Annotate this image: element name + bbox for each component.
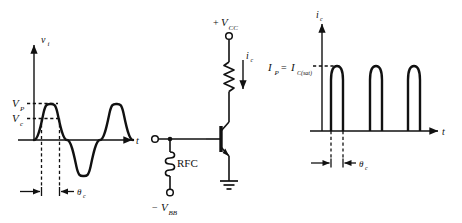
current-pulse-1: [331, 66, 343, 131]
icsat-symbol: I: [290, 61, 296, 73]
collector-resistor: [224, 62, 234, 92]
class-c-amplifier-circuit: + V CC i c: [152, 16, 254, 217]
vcc-sign: +: [213, 17, 219, 28]
vcc-subscript: CC: [229, 24, 239, 32]
ic-circuit-label-symbol: i: [246, 50, 249, 61]
ic-axis-label: i: [316, 9, 319, 20]
vi-axis-label-sub: i: [48, 40, 50, 48]
theta-c-label-subscript: c: [83, 193, 86, 199]
vbb-terminal: [167, 189, 174, 196]
vi-x-axis-label: t: [136, 135, 139, 146]
rfc-label: RFC: [177, 157, 198, 169]
theta-c-label-symbol: θ: [77, 187, 82, 197]
vp-label-subscript: P: [19, 105, 25, 113]
technical-figure: v i t V P V c θ c + V CC: [0, 0, 462, 223]
input-terminal: [152, 136, 159, 143]
vcc-terminal: [226, 33, 233, 40]
ic-axis-label-sub: c: [320, 16, 323, 22]
current-pulse-3: [408, 66, 420, 131]
collector-current-waveform: i c t I P = I C(sat) θ c: [267, 9, 445, 171]
ic-theta-c-label-symbol: θ: [359, 159, 364, 169]
vbb-sign: −: [152, 202, 158, 213]
vc-label-symbol: V: [12, 112, 20, 124]
input-voltage-waveform: v i t V P V c θ c: [12, 34, 139, 199]
ip-subscript: P: [274, 69, 280, 77]
rfc-choke: [166, 152, 175, 176]
current-pulse-2: [370, 66, 382, 131]
ic-circuit-label-subscript: c: [251, 57, 254, 63]
ip-symbol: I: [267, 61, 273, 73]
vc-label-subscript: c: [20, 120, 24, 128]
ic-x-axis-label: t: [442, 126, 445, 137]
figure-root: v i t V P V c θ c + V CC: [0, 0, 462, 223]
peak-equals-sign: =: [281, 62, 287, 73]
vbb-subscript: BB: [169, 209, 178, 217]
vp-label-symbol: V: [12, 97, 20, 109]
vi-axis-label: v: [41, 34, 46, 45]
icsat-subscript: C(sat): [297, 70, 312, 77]
ic-theta-c-label-subscript: c: [365, 165, 368, 171]
